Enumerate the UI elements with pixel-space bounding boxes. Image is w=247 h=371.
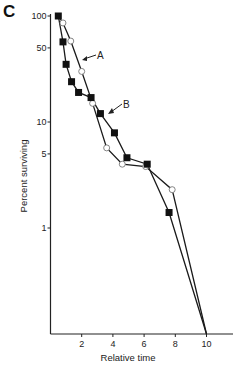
x-tick-label: 10 [201,339,211,349]
data-point-square [166,209,173,216]
series-lines [58,16,206,334]
data-point-square [97,110,104,117]
data-point-circle [90,100,96,106]
data-point-square [75,89,82,96]
annotations: AB [82,50,130,114]
series-line-A [58,16,206,334]
arrowhead-icon [108,108,114,114]
data-point-square [59,38,66,45]
x-tick-label: 2 [79,339,84,349]
series-label-b: B [123,99,130,110]
data-point-circle [60,20,66,26]
y-axis-title: Percent surviving [18,140,29,213]
data-point-square [68,78,75,85]
x-tick-label: 6 [142,339,147,349]
data-point-circle [68,38,74,44]
data-point-circle [79,68,85,74]
x-tick-label: 8 [173,339,178,349]
x-tick-label: 4 [110,339,115,349]
data-point-square [123,154,130,161]
x-axis-title: Relative time [101,352,156,363]
data-point-square [88,94,95,101]
axes: 100501051246810 [31,11,233,349]
y-tick-label: 100 [31,11,46,21]
series-label-a: A [97,50,104,61]
data-point-square [63,61,70,68]
survival-chart: 100501051246810 AB Relative time Percent… [0,0,247,371]
data-point-circle [119,161,125,167]
arrowhead-icon [82,56,87,61]
data-point-circle [104,145,110,151]
data-point-square [111,129,118,136]
y-tick-label: 50 [36,43,46,53]
series-line-B [58,16,206,334]
y-tick-label: 5 [41,149,46,159]
y-tick-label: 10 [36,117,46,127]
data-point-circle [169,187,175,193]
y-tick-label: 1 [41,223,46,233]
data-point-square [55,13,62,20]
data-point-square [144,161,151,168]
